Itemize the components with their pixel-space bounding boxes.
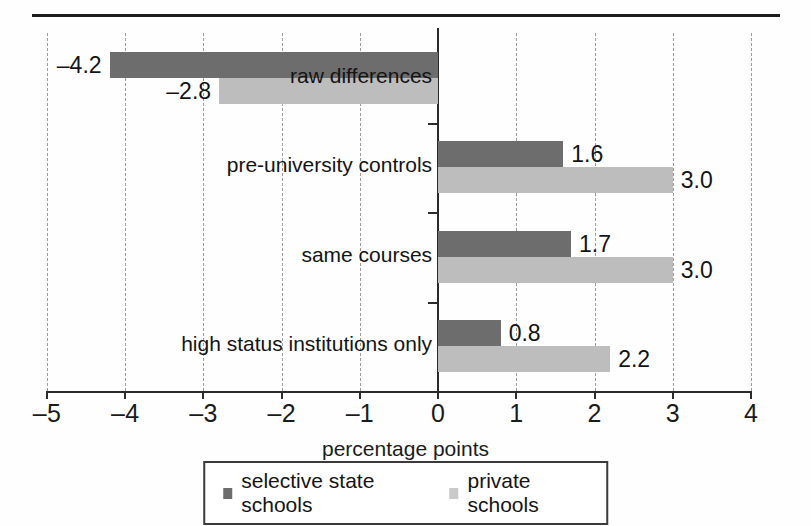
x-tick-label-–1: –1	[330, 399, 390, 428]
x-axis-title: percentage points	[0, 437, 811, 461]
plot-area: –4.2–2.8raw differences1.63.0pre-univers…	[47, 33, 751, 391]
gridline-4	[751, 33, 752, 391]
category-boundary-tick	[428, 212, 438, 214]
x-tick-3	[672, 391, 674, 399]
legend-swatch-light-square-icon	[449, 488, 458, 499]
bar-1-2	[438, 257, 673, 283]
category-label-2: same courses	[47, 243, 438, 267]
bar-0-2	[438, 231, 571, 257]
value-label-1-1: 3.0	[681, 167, 713, 193]
category-label-3: high status institutions only	[47, 332, 438, 356]
bar-1-1	[438, 167, 673, 193]
value-label-0-1: 1.6	[571, 141, 603, 167]
value-label-0-2: 1.7	[579, 231, 611, 257]
bar-chart-figure: –4.2–2.8raw differences1.63.0pre-univers…	[0, 0, 811, 526]
gridline-3	[673, 33, 674, 391]
x-tick-label-–5: –5	[17, 399, 77, 428]
legend-label-private-schools: private schools	[467, 469, 588, 517]
category-label-0: raw differences	[47, 64, 438, 88]
x-tick-–3	[202, 391, 204, 399]
value-label-0-3: 0.8	[509, 320, 541, 346]
x-tick-–2	[281, 391, 283, 399]
bar-0-3	[438, 320, 501, 346]
value-label-1-3: 2.2	[618, 346, 650, 372]
category-boundary-tick	[428, 123, 438, 125]
category-label-1: pre-university controls	[47, 153, 438, 177]
bar-1-3	[438, 346, 610, 372]
x-tick-4	[750, 391, 752, 399]
x-tick-label-3: 3	[643, 399, 703, 428]
x-axis-line	[47, 391, 751, 393]
value-label-1-2: 3.0	[681, 257, 713, 283]
legend-item-private-schools: private schools	[449, 469, 588, 517]
x-tick-–5	[46, 391, 48, 399]
x-tick-0	[437, 391, 439, 399]
legend-swatch-dark-square-icon	[223, 488, 233, 499]
x-tick-label-2: 2	[565, 399, 625, 428]
x-tick-label-–4: –4	[95, 399, 155, 428]
gridline-2	[595, 33, 596, 391]
x-tick-1	[515, 391, 517, 399]
x-tick-–1	[359, 391, 361, 399]
legend-item-selective-state-schools: selective state schools	[223, 469, 423, 517]
x-tick-–4	[124, 391, 126, 399]
legend-label-selective-state-schools: selective state schools	[241, 469, 423, 517]
top-horizontal-rule	[32, 14, 780, 17]
x-tick-label-0: 0	[408, 399, 468, 428]
x-tick-label-4: 4	[721, 399, 781, 428]
x-tick-label-–2: –2	[252, 399, 312, 428]
x-tick-2	[594, 391, 596, 399]
chart-legend: selective state schools private schools	[203, 461, 609, 525]
x-tick-label-–3: –3	[173, 399, 233, 428]
bar-0-1	[438, 141, 563, 167]
category-boundary-tick	[428, 302, 438, 304]
x-tick-label-1: 1	[486, 399, 546, 428]
